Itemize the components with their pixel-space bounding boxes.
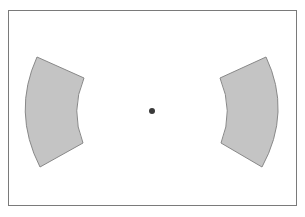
diagram-canvas — [0, 0, 305, 217]
center-point — [149, 108, 155, 114]
